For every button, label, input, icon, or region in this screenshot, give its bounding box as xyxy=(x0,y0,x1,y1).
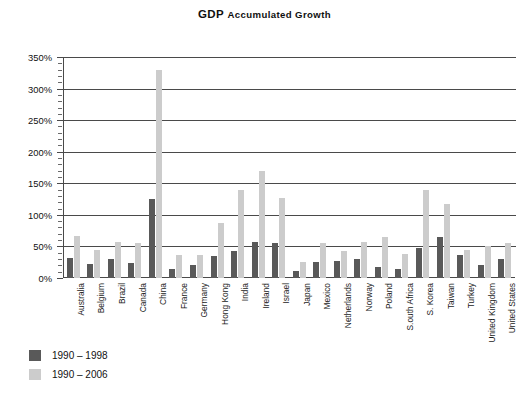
x-axis-tick-label: Turkey xyxy=(467,283,475,308)
x-axis-tick-label: Poland xyxy=(385,283,393,309)
x-axis-tick-label: Belgium xyxy=(97,283,105,313)
bar xyxy=(74,236,80,278)
y-axis-minor-tick xyxy=(58,227,62,228)
bar-group xyxy=(145,57,166,278)
bar xyxy=(382,237,388,278)
x-axis-tick-label: China xyxy=(159,283,167,305)
y-axis-minor-tick xyxy=(58,114,62,115)
bar-group xyxy=(227,57,248,278)
legend-swatch-icon xyxy=(29,350,41,361)
bars-layer xyxy=(63,57,515,278)
y-axis-minor-tick xyxy=(58,145,62,146)
x-axis-tick-label: India xyxy=(241,283,249,301)
bar xyxy=(505,243,511,278)
bar xyxy=(156,70,162,278)
bar-group xyxy=(63,57,84,278)
bar xyxy=(498,259,504,278)
bar xyxy=(402,254,408,278)
y-axis-minor-tick xyxy=(58,209,62,210)
bar xyxy=(238,190,244,278)
bar xyxy=(272,243,278,278)
y-axis-tick-label: 150% xyxy=(28,178,52,189)
y-axis-minor-tick xyxy=(58,253,62,254)
chart-title-rest: Accumulated Growth xyxy=(227,9,331,20)
x-axis-tick-label: Germany xyxy=(200,283,208,317)
bar-group xyxy=(289,57,310,278)
bar xyxy=(279,198,285,278)
bar xyxy=(416,248,422,278)
x-axis-tick-label: Australia xyxy=(77,283,85,316)
bar-group xyxy=(207,57,228,278)
bar-group xyxy=(166,57,187,278)
legend-swatch-icon xyxy=(29,369,41,380)
bar xyxy=(259,171,265,278)
x-axis-labels: AustraliaBelgiumBrazilCanadaChinaFranceG… xyxy=(63,281,515,347)
bar xyxy=(115,242,121,278)
bar xyxy=(231,251,237,278)
legend-item: 1990 – 1998 xyxy=(29,350,108,361)
bar-group xyxy=(494,57,515,278)
y-axis-minor-tick xyxy=(58,70,62,71)
x-axis-tick-label: Taiwan xyxy=(447,283,455,309)
y-axis-tick-label: 200% xyxy=(28,146,52,157)
bar xyxy=(354,259,360,278)
legend-label: 1990 – 1998 xyxy=(52,350,108,361)
y-axis: 0%50%100%150%200%250%300%350% xyxy=(0,0,63,340)
y-axis-tick-label: 300% xyxy=(28,83,52,94)
bar-group xyxy=(474,57,495,278)
legend-label: 1990 – 2006 xyxy=(52,369,108,380)
x-axis-tick-label: France xyxy=(180,283,188,309)
bar xyxy=(211,256,217,278)
bar-group xyxy=(412,57,433,278)
bar-group xyxy=(84,57,105,278)
y-axis-minor-tick xyxy=(58,139,62,140)
x-axis-tick-label: Brazil xyxy=(118,283,126,304)
y-axis-minor-tick xyxy=(58,221,62,222)
y-axis-tick xyxy=(57,278,63,279)
y-axis-minor-tick xyxy=(58,240,62,241)
bar xyxy=(293,271,299,278)
bar-group xyxy=(186,57,207,278)
bar xyxy=(444,204,450,279)
bar-group xyxy=(433,57,454,278)
chart-title-lead: GDP xyxy=(198,8,228,20)
y-axis-minor-tick xyxy=(58,259,62,260)
bar xyxy=(423,190,429,278)
bar xyxy=(87,264,93,278)
x-axis-tick-label: United Kingdom xyxy=(488,283,496,343)
bar-group xyxy=(125,57,146,278)
x-axis-tick-label: United States xyxy=(508,283,516,333)
y-axis-minor-tick xyxy=(58,202,62,203)
bar xyxy=(190,265,196,278)
x-axis-tick-label: S.outh Africa xyxy=(406,283,414,331)
chart-container: GDP Accumulated Growth 0%50%100%150%200%… xyxy=(0,0,529,405)
y-axis-tick-label: 250% xyxy=(28,115,52,126)
bar xyxy=(478,265,484,278)
x-axis-tick-label: S. Korea xyxy=(426,283,434,316)
bar xyxy=(485,246,491,278)
y-axis-minor-tick xyxy=(58,171,62,172)
y-axis-minor-tick xyxy=(58,164,62,165)
x-axis-tick-label: Canada xyxy=(139,283,147,312)
bar xyxy=(149,199,155,278)
bar-group xyxy=(453,57,474,278)
x-axis-tick-label: Japan xyxy=(303,283,311,306)
y-axis-minor-tick xyxy=(58,265,62,266)
y-axis-minor-tick xyxy=(58,196,62,197)
bar-group xyxy=(268,57,289,278)
bar xyxy=(94,250,100,278)
y-axis-tick-label: 50% xyxy=(33,241,52,252)
y-axis-minor-tick xyxy=(58,108,62,109)
bar xyxy=(252,242,258,278)
bar xyxy=(108,259,114,278)
x-axis-tick-label: Hong Kong xyxy=(221,283,229,325)
y-axis-minor-tick xyxy=(58,95,62,96)
bar-group xyxy=(330,57,351,278)
bar xyxy=(313,262,319,278)
bar xyxy=(169,269,175,278)
y-axis-minor-tick xyxy=(58,63,62,64)
x-axis-tick-label: Ireland xyxy=(262,283,270,309)
bar-group xyxy=(371,57,392,278)
x-axis-tick-label: Norway xyxy=(365,283,373,311)
bar xyxy=(395,269,401,278)
